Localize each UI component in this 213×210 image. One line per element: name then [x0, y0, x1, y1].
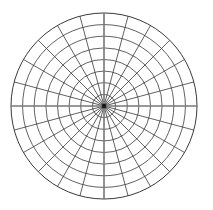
polar-grid-canvas [0, 0, 213, 210]
polar-grid-figure [0, 0, 213, 210]
polar-origin-marker [102, 104, 106, 108]
